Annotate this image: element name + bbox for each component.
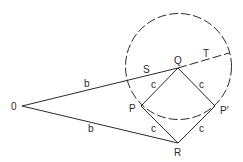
label-c-qp-prime: c [199, 79, 204, 90]
label-o: 0 [11, 101, 17, 112]
label-p-prime: P′ [220, 105, 229, 116]
label-c-qp: c [151, 79, 156, 90]
geometry-diagram: 0 Q P P′ R S T b b c c c c [0, 0, 243, 162]
segment-p-r [141, 106, 178, 143]
label-b-upper: b [84, 78, 90, 89]
label-c-pr: c [151, 123, 156, 134]
label-q: Q [174, 55, 182, 66]
label-p: P [129, 103, 136, 114]
label-r: R [174, 147, 181, 158]
label-t: T [203, 48, 209, 59]
label-c-p-prime-r: c [199, 123, 204, 134]
segment-q-p-prime [178, 68, 215, 106]
segment-p-prime-r [178, 106, 215, 143]
dashed-circle [126, 14, 232, 120]
label-s: S [143, 64, 150, 75]
label-b-lower: b [88, 123, 94, 134]
